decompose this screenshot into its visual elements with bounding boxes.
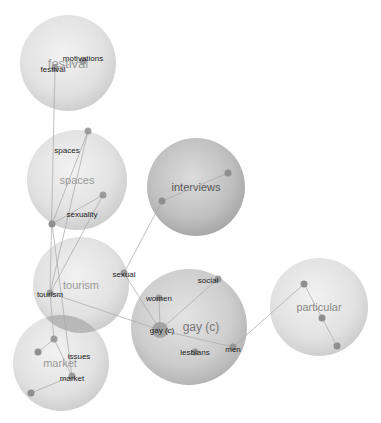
node-particular-b[interactable] [334,343,341,350]
node-interviews-a[interactable] [159,198,166,205]
term-label-spaces-term[interactable]: spaces [54,146,79,155]
node-interviews-b[interactable] [225,170,232,177]
cluster-label-gay: gay (c) [183,320,220,334]
concept-map-canvas: festivalspacesinterviewstourismmarketgay… [0,0,381,423]
term-label-men[interactable]: men [225,345,241,354]
term-label-women[interactable]: women [145,294,172,303]
cluster-label-tourism: tourism [63,279,99,291]
term-label-sexual[interactable]: sexual [112,270,135,279]
term-label-sexuality[interactable]: sexuality [66,210,97,219]
node-spaces-c[interactable] [49,221,56,228]
term-label-market-term[interactable]: market [60,374,85,383]
term-label-tourism-term[interactable]: tourism [37,290,64,299]
cluster-label-particular: particular [296,301,342,313]
term-label-festival-term[interactable]: festival [41,65,66,74]
term-label-motivations[interactable]: motivations [63,54,103,63]
node-particular-a[interactable] [301,281,308,288]
term-label-lesbians[interactable]: lesbians [180,348,209,357]
node-sexuality[interactable] [100,192,107,199]
node-market-a[interactable] [35,349,42,356]
edge-interviews-a-sexual [124,201,162,273]
node-particular-c[interactable] [319,315,326,322]
term-label-issues[interactable]: issues [68,352,91,361]
node-market-b[interactable] [28,390,35,397]
term-label-social[interactable]: social [198,276,219,285]
node-issues[interactable] [51,336,58,343]
node-spaces-term[interactable] [85,128,92,135]
concept-map: festivalspacesinterviewstourismmarketgay… [0,0,381,423]
cluster-label-interviews: interviews [172,181,221,193]
term-label-gay-term[interactable]: gay (c) [150,326,175,335]
